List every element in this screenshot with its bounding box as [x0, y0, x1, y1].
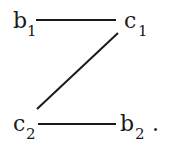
node-c1: c 1	[124, 8, 148, 40]
diagram: b 1 c 1 c 2 b 2 .	[0, 0, 174, 149]
trailing-period: .	[152, 111, 159, 136]
svg-text:b: b	[13, 8, 27, 33]
svg-text:c: c	[124, 8, 136, 33]
svg-text:1: 1	[27, 22, 37, 40]
svg-text:2: 2	[26, 125, 36, 143]
svg-text:2: 2	[135, 125, 145, 143]
node-c2: c 2	[13, 111, 36, 143]
svg-text:1: 1	[138, 22, 148, 40]
svg-text:b: b	[120, 111, 134, 136]
node-b1: b 1	[13, 8, 37, 40]
node-b2: b 2	[120, 111, 145, 143]
edge-c1-c2	[37, 33, 118, 109]
svg-text:c: c	[13, 111, 25, 136]
